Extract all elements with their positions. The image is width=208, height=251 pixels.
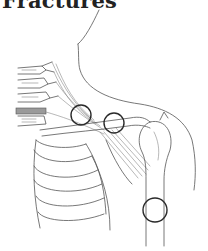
- rib-cage: [34, 140, 110, 230]
- fracture-marker-humeral-shaft: [143, 198, 167, 222]
- humerus: [139, 112, 171, 246]
- scapula-muscle: [100, 128, 150, 184]
- fracture-marker-mid-clavicle: [104, 113, 124, 133]
- clavicle: [40, 117, 150, 136]
- cervical-spine: [16, 62, 58, 126]
- shoulder-illustration: [0, 0, 208, 251]
